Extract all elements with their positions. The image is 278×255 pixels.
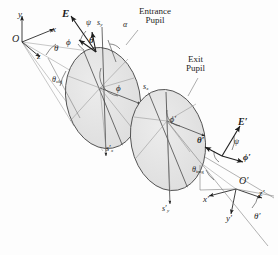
entrance-sy-sub: y — [100, 22, 102, 27]
entrance-sy-label: sy — [97, 19, 102, 28]
theta-obj-label: θobj — [52, 76, 62, 85]
object-axis-y-label: y — [18, 10, 22, 19]
image-theta-prime-label: θ′ — [254, 212, 260, 221]
object-theta-label: θ — [54, 44, 58, 53]
image-axis-z-label: z′ — [259, 189, 264, 198]
diagram-canvas — [0, 0, 278, 255]
optics-figure: O y x z E ψ ϕ θ θ θobj sy α ϕ sx Entranc… — [0, 0, 278, 255]
entrance-alpha-label: α — [123, 21, 127, 29]
entrance-pupil-caption: Entrance Pupil — [139, 7, 171, 25]
object-phi-label: ϕ — [66, 38, 71, 47]
theta-img-sub: img — [196, 169, 204, 174]
image-origin-label: O′ — [239, 176, 248, 186]
object-field-vector-label: E — [62, 8, 69, 19]
image-phi-prime-unit-label: ϕ′ — [243, 153, 251, 162]
image-psi-label: ψ — [234, 138, 239, 146]
image-angle-arcs — [206, 136, 258, 208]
image-axis-y-label: y′ — [226, 214, 232, 223]
exit-sy-sub: y — [167, 208, 169, 213]
image-axis-x-label: x′ — [203, 195, 209, 204]
exit-pupil-caption-line2: Pupil — [186, 63, 205, 73]
entrance-pupil-caption-line2: Pupil — [145, 15, 164, 25]
exit-phi-prime-label: ϕ′ — [170, 116, 176, 124]
object-axis-z-label: z — [37, 52, 41, 61]
entrance-sx-sub: x — [146, 86, 148, 91]
image-theta-unit-label: θ′ — [197, 136, 204, 145]
object-theta-unit-label: θ — [89, 36, 94, 45]
exit-sx-sub: x — [111, 148, 113, 153]
exit-pupil-caption: Exit Pupil — [186, 55, 205, 73]
exit-sy-prime-label: s′y — [162, 205, 169, 214]
theta-obj-sub: obj — [56, 79, 62, 84]
image-field-vector-label: E′ — [238, 117, 247, 127]
object-origin-label: O — [12, 34, 19, 44]
object-psi-label: ψ — [86, 19, 91, 27]
exit-sx-prime-label: s′x — [106, 145, 113, 154]
entrance-sx-label: sx — [143, 83, 148, 92]
theta-img-label: θimg — [192, 166, 204, 175]
object-axis-x-label: x — [52, 25, 56, 34]
entrance-phi-label: ϕ — [116, 84, 121, 93]
